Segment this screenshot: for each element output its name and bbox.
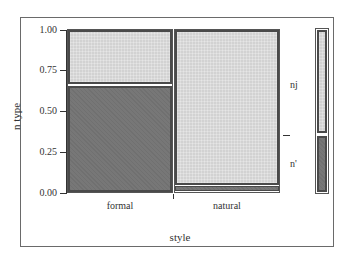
label-nj: nj xyxy=(290,79,298,90)
y-tick-label: 0.75 xyxy=(21,64,57,75)
marginal-segment-nj xyxy=(317,30,327,133)
segment-formal-n-prime xyxy=(68,86,172,192)
y-tick-label: 0.00 xyxy=(21,187,57,198)
segment-natural-nj xyxy=(175,30,279,185)
x-tick xyxy=(173,194,174,199)
y-tick-label: 1.00 xyxy=(21,24,57,35)
y-tick-label: 0.50 xyxy=(21,105,57,116)
y-tick xyxy=(60,30,66,31)
y-axis-label: n type xyxy=(10,103,22,130)
y-tick xyxy=(60,152,66,153)
segment-formal-nj xyxy=(68,30,172,84)
y-tick-label: 0.25 xyxy=(21,146,57,157)
y-tick xyxy=(60,111,66,112)
y-tick xyxy=(60,70,66,71)
label-n-prime: n' xyxy=(290,158,297,169)
marginal-segment-n-prime xyxy=(317,136,327,192)
category-separator-tick xyxy=(283,135,290,136)
segment-natural-n-prime xyxy=(175,186,279,191)
x-tick-label-natural: natural xyxy=(187,200,267,211)
y-tick xyxy=(60,193,66,194)
x-tick-label-formal: formal xyxy=(80,200,160,211)
x-axis-label: style xyxy=(150,231,210,243)
